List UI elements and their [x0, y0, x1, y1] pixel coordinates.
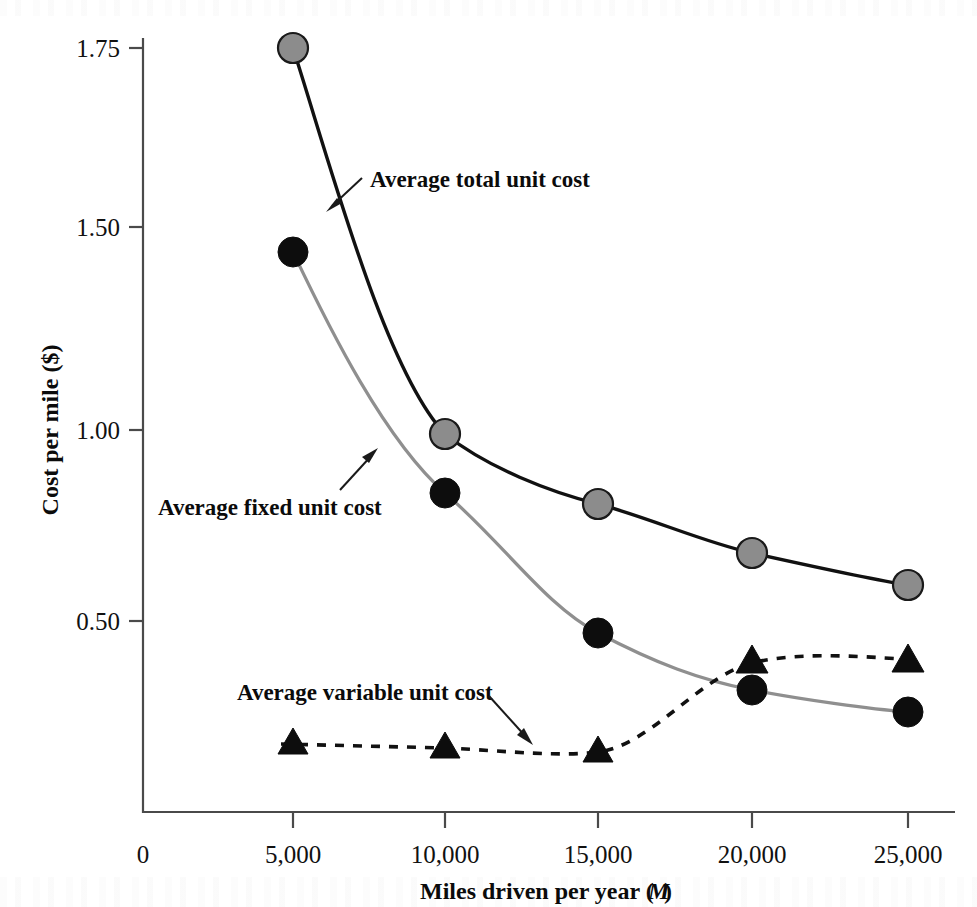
ytick-label-1-00: 1.00	[76, 417, 120, 444]
variable-cost-point-10000	[430, 732, 460, 758]
xtick-label-10000: 10,000	[411, 841, 480, 868]
total-cost-point-10000	[430, 419, 460, 449]
total-cost-point-25000	[893, 570, 923, 600]
annotation-fixed-label: Average fixed unit cost	[158, 495, 382, 520]
total-cost-point-20000	[737, 538, 767, 568]
annotation-variable-label: Average variable unit cost	[237, 680, 493, 705]
xtick-label-15000: 15,000	[564, 841, 633, 868]
ytick-label-1-75: 1.75	[76, 35, 120, 62]
xtick-labels: 0 5,000 10,000 15,000 20,000 25,000	[137, 841, 943, 868]
fixed-cost-point-5000	[278, 237, 308, 267]
annotation-average-fixed-unit-cost: Average fixed unit cost	[158, 448, 382, 520]
x-axis-title-text: Miles driven per year (	[420, 878, 654, 904]
fixed-cost-point-25000	[893, 697, 923, 727]
y-axis-title: Cost per mile ($)	[37, 345, 63, 516]
ytick-label-0-50: 0.50	[76, 608, 120, 635]
ytick-labels: 1.75 1.50 1.00 0.50	[76, 35, 120, 635]
variable-cost-point-25000	[892, 644, 924, 672]
xtick-label-0: 0	[137, 841, 150, 868]
xtick-label-5000: 5,000	[265, 841, 321, 868]
ytick-label-1-50: 1.50	[76, 214, 120, 241]
xtick-label-25000: 25,000	[874, 841, 943, 868]
variable-cost-point-5000	[278, 728, 308, 754]
xtick-label-20000: 20,000	[718, 841, 787, 868]
chart-figure: 1.75 1.50 1.00 0.50 0 5,000 10,000 15,00…	[0, 0, 977, 907]
total-cost-point-15000	[583, 489, 613, 519]
fixed-cost-point-10000	[430, 478, 460, 508]
fixed-cost-point-20000	[737, 675, 767, 705]
x-axis-title: Miles driven per year ( M )	[420, 878, 672, 904]
x-axis-title-close: )	[664, 878, 672, 904]
total-cost-point-5000	[278, 33, 308, 63]
annotation-total-label: Average total unit cost	[370, 167, 590, 192]
fixed-cost-point-15000	[583, 618, 613, 648]
axis-group	[129, 38, 955, 828]
series-average-fixed-unit-cost	[278, 237, 923, 727]
annotation-fixed-arrowhead	[362, 448, 378, 463]
cost-per-mile-line-chart: 1.75 1.50 1.00 0.50 0 5,000 10,000 15,00…	[0, 0, 977, 907]
annotation-average-total-unit-cost: Average total unit cost	[326, 167, 590, 212]
annotation-average-variable-unit-cost: Average variable unit cost	[237, 680, 533, 745]
